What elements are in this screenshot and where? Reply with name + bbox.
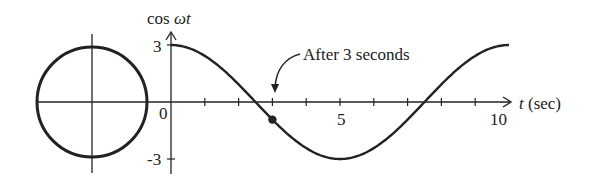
annotation-arrow-icon [271, 54, 300, 93]
y-tick-label-bottom: -3 [147, 150, 161, 169]
x-axis-label: t (sec) [519, 94, 561, 113]
x-tick-label-end: 10 [490, 110, 507, 129]
y-tick-label-zero: 0 [159, 104, 168, 123]
axes [37, 32, 511, 174]
phasor-circle-group [37, 34, 147, 173]
x-tick-label-mid: 5 [337, 110, 346, 129]
highlight-point-marker [268, 115, 276, 123]
cosine-plot-figure: cos ωt 3 0 -3 5 10 t (sec) After 3 secon… [0, 0, 605, 184]
y-tick-label-top: 3 [153, 37, 162, 56]
annotation-text: After 3 seconds [303, 45, 410, 64]
y-axis-label: cos ωt [147, 9, 192, 28]
